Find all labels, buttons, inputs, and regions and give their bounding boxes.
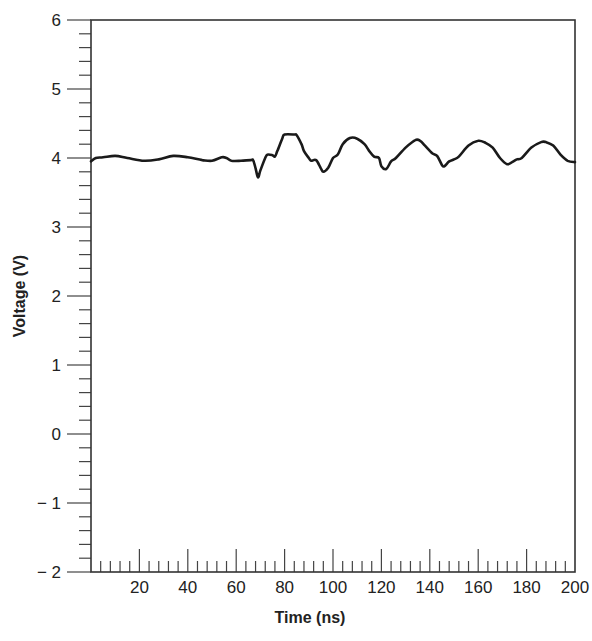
- y-tick-label: 3: [52, 218, 61, 237]
- y-tick-label: 1: [52, 356, 61, 375]
- x-tick-label: 160: [464, 578, 492, 597]
- y-axis-title: Voltage (V): [11, 255, 28, 337]
- y-tick-label: 5: [52, 80, 61, 99]
- y-tick-label: − 2: [37, 563, 61, 582]
- x-tick-label: 60: [227, 578, 246, 597]
- x-tick-label: 20: [130, 578, 149, 597]
- x-tick-label: 80: [275, 578, 294, 597]
- y-axis: − 2− 10123456: [37, 11, 91, 582]
- x-tick-label: 40: [178, 578, 197, 597]
- y-tick-label: 0: [52, 425, 61, 444]
- plot-frame: [91, 20, 575, 572]
- y-tick-label: 2: [52, 287, 61, 306]
- y-tick-label: − 1: [37, 494, 61, 513]
- x-axis-title: Time (ns): [275, 609, 346, 626]
- x-tick-label: 180: [512, 578, 540, 597]
- y-tick-label: 6: [52, 11, 61, 30]
- x-tick-label: 200: [561, 578, 589, 597]
- voltage-trace-line: [91, 134, 575, 177]
- voltage-time-chart: − 2− 10123456 20406080100120140160180200…: [0, 0, 592, 641]
- x-tick-label: 120: [367, 578, 395, 597]
- y-tick-label: 4: [52, 149, 61, 168]
- x-axis: 20406080100120140160180200: [101, 549, 590, 597]
- x-tick-label: 140: [416, 578, 444, 597]
- x-tick-label: 100: [319, 578, 347, 597]
